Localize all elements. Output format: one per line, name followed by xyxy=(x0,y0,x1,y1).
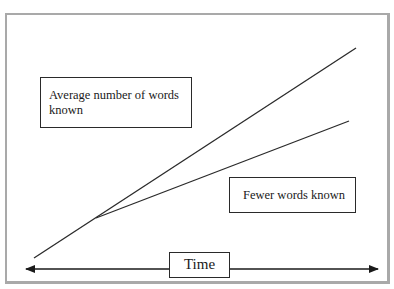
time-axis-label: Time xyxy=(169,252,230,278)
diagram-lines xyxy=(0,0,394,289)
average-words-label: Average number of words known xyxy=(40,77,192,128)
fewer-words-label: Fewer words known xyxy=(229,177,356,213)
